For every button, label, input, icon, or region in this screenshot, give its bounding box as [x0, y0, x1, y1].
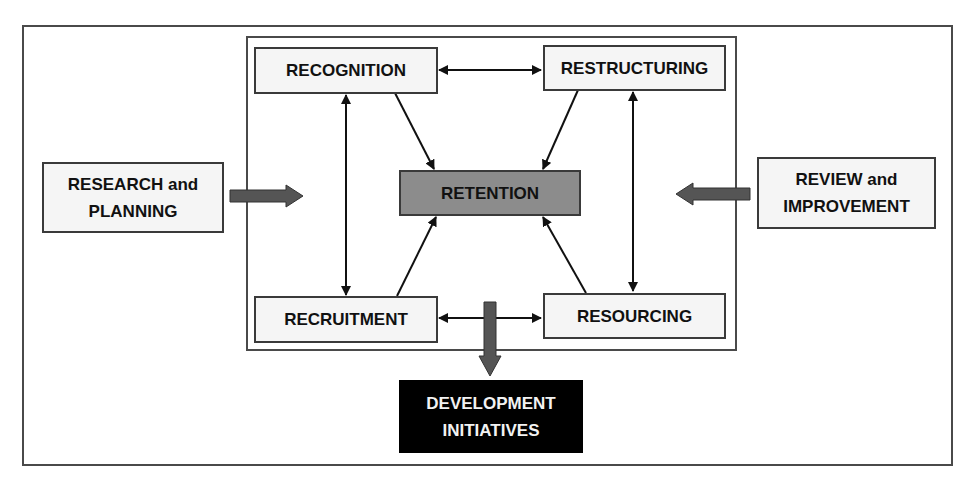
node-retention: RETENTION [399, 170, 581, 216]
node-label-line2: IMPROVEMENT [783, 193, 910, 220]
node-label-line1: RESEARCH and [68, 171, 198, 198]
node-label-line1: DEVELOPMENT [426, 390, 555, 417]
node-recruitment: RECRUITMENT [254, 296, 438, 343]
node-research-planning: RESEARCH and PLANNING [42, 162, 224, 233]
node-review-improvement: REVIEW and IMPROVEMENT [757, 157, 936, 229]
node-development-initiatives: DEVELOPMENT INITIATIVES [399, 380, 583, 453]
node-label-line2: PLANNING [89, 198, 178, 225]
node-label-line1: REVIEW and [795, 166, 897, 193]
node-label: RETENTION [441, 180, 539, 207]
node-label: RESTRUCTURING [561, 55, 708, 82]
node-label: RECRUITMENT [284, 306, 408, 333]
node-label: RECOGNITION [286, 57, 406, 84]
node-label-line2: INITIATIVES [443, 417, 540, 444]
node-restructuring: RESTRUCTURING [543, 45, 726, 91]
node-label: RESOURCING [577, 303, 692, 330]
node-resourcing: RESOURCING [543, 293, 726, 339]
node-recognition: RECOGNITION [254, 47, 438, 94]
